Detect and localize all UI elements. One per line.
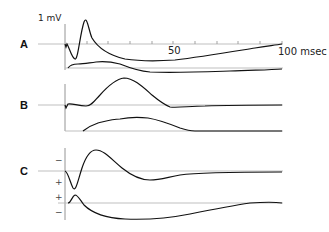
scale-bar-label: 1 mV (38, 13, 62, 23)
panel-label-c: C (20, 165, 28, 177)
trace-b-lower (83, 117, 282, 131)
trace-c-upper (65, 150, 282, 189)
panel-label-a: A (20, 38, 28, 50)
trace-b-upper (65, 78, 282, 108)
tick-label-50: 50 (168, 45, 181, 56)
figure: A 1 mV 50 100 msec B (0, 0, 329, 232)
sign-minus-lower: − (55, 207, 63, 217)
panel-label-b: B (20, 99, 28, 111)
panel-a: A 1 mV 50 100 msec (20, 13, 327, 72)
trace-c-lower (68, 195, 282, 219)
tick-label-100: 100 msec (278, 46, 327, 57)
sign-plus-upper: + (55, 177, 63, 187)
sign-plus-lower: + (55, 192, 63, 202)
panel-b: B (20, 78, 283, 131)
sign-minus-upper: − (55, 155, 63, 165)
panel-c: C − + + − (20, 148, 283, 220)
trace-a-lower (68, 62, 282, 73)
